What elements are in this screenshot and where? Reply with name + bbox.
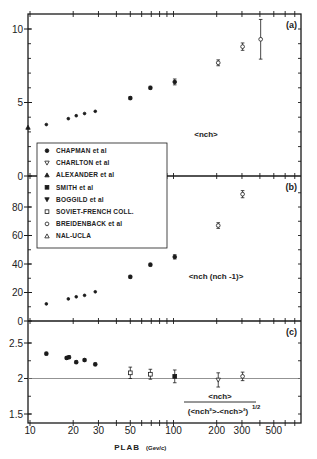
data-point bbox=[67, 298, 70, 301]
data-point bbox=[67, 117, 70, 120]
legend-label: CHARLTON et al bbox=[56, 159, 109, 166]
y-tick-label: 80 bbox=[12, 202, 24, 213]
data-point bbox=[75, 114, 78, 117]
legend-item: SOVIET-FRENCH COLL. bbox=[45, 208, 134, 215]
data-point bbox=[149, 369, 153, 379]
legend-label: ALEXANDER et al bbox=[56, 171, 114, 178]
data-point bbox=[67, 355, 71, 359]
x-tick-label: 20 bbox=[68, 425, 80, 436]
data-point bbox=[74, 360, 78, 364]
ratio-exponent: 1/2 bbox=[252, 404, 261, 410]
multiplicity-chart: 10203050100200300500PLAB(Gev/c)0510(a)02… bbox=[0, 0, 317, 459]
data-point bbox=[83, 358, 87, 362]
y-tick-label: 0 bbox=[17, 316, 23, 327]
data-point bbox=[26, 125, 30, 129]
data-point bbox=[94, 110, 97, 113]
data-point bbox=[128, 275, 132, 279]
y-tick-label: 10 bbox=[12, 24, 24, 35]
x-axis-units: (Gev/c) bbox=[146, 445, 166, 451]
data-point bbox=[216, 373, 220, 387]
x-tick-label: 100 bbox=[165, 425, 182, 436]
data-point bbox=[83, 112, 86, 115]
x-tick-label: 300 bbox=[234, 425, 251, 436]
data-point bbox=[149, 263, 153, 267]
annotation-nch-nch-1: <nch (nch -1)> bbox=[189, 272, 244, 281]
data-point bbox=[94, 290, 97, 293]
data-point bbox=[173, 255, 177, 259]
data-point bbox=[216, 60, 220, 66]
data-point bbox=[93, 362, 97, 366]
x-tick-label: 500 bbox=[265, 425, 282, 436]
x-tick-label: 200 bbox=[208, 425, 225, 436]
legend-item: ALEXANDER et al bbox=[45, 171, 114, 178]
legend-label: SOVIET-FRENCH COLL. bbox=[56, 208, 134, 215]
x-axis-labels: 10203050100200300500 bbox=[24, 425, 282, 436]
legend-item: BREIDENBACK et al bbox=[45, 220, 122, 227]
x-tick-label: 50 bbox=[125, 425, 137, 436]
x-tick-label: 30 bbox=[93, 425, 105, 436]
data-point bbox=[128, 367, 132, 378]
y-tick-label: 20 bbox=[12, 287, 24, 298]
y-tick-label: 2.5 bbox=[9, 338, 23, 349]
ratio-denominator: (<nch²>-<nch>²) bbox=[188, 407, 249, 416]
x-tick-label: 10 bbox=[24, 425, 36, 436]
data-point bbox=[241, 372, 245, 381]
x-axis-title: PLAB bbox=[114, 443, 140, 452]
figure-root: 10203050100200300500PLAB(Gev/c)0510(a)02… bbox=[0, 0, 317, 459]
ratio-numerator: <nch> bbox=[208, 392, 232, 401]
data-series-panel-c bbox=[44, 352, 244, 387]
panel-tag-c: (c) bbox=[286, 327, 297, 337]
y-tick-label: 2 bbox=[17, 373, 23, 384]
data-point bbox=[45, 303, 48, 306]
data-point bbox=[259, 19, 263, 59]
data-point bbox=[44, 352, 48, 356]
legend-label: CHAPMAN et al bbox=[56, 147, 107, 154]
panel-tag-a: (a) bbox=[286, 20, 297, 30]
legend-label: NAL-UCLA bbox=[56, 232, 91, 239]
legend-label: BOGGILD et al bbox=[56, 196, 104, 203]
panel-tag-b: (b) bbox=[286, 182, 298, 192]
data-series-panel-a bbox=[26, 19, 263, 129]
legend: CHAPMAN et alCHARLTON et alALEXANDER et … bbox=[37, 143, 167, 248]
legend-label: BREIDENBACK et al bbox=[56, 220, 122, 227]
data-point bbox=[45, 123, 48, 126]
annotation-nch: <nch> bbox=[194, 130, 218, 139]
y-tick-label: 1.5 bbox=[9, 409, 23, 420]
data-point bbox=[83, 294, 86, 297]
data-point bbox=[216, 223, 220, 229]
data-point bbox=[241, 191, 245, 198]
data-point bbox=[75, 295, 78, 298]
y-tick-label: 0 bbox=[17, 171, 23, 182]
data-point bbox=[241, 43, 245, 50]
data-point bbox=[173, 79, 177, 85]
annotation-ratio: <nch>(<nch²>-<nch>²)1/2 bbox=[184, 392, 261, 416]
data-point bbox=[173, 370, 177, 383]
data-point bbox=[149, 86, 153, 90]
y-tick-label: 60 bbox=[12, 230, 24, 241]
y-tick-label: 5 bbox=[17, 97, 23, 108]
y-tick-label: 40 bbox=[12, 259, 24, 270]
data-point bbox=[128, 96, 132, 100]
legend-label: SMITH et al bbox=[56, 184, 93, 191]
